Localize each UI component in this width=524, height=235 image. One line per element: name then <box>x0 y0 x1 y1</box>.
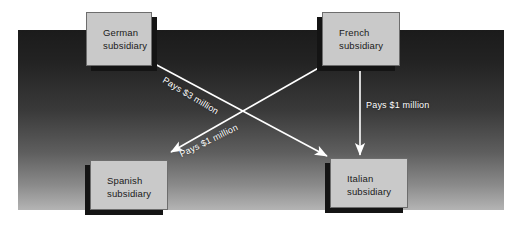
node-french-label-line2: subsidiary <box>339 39 399 52</box>
connector-layer <box>0 0 524 235</box>
edge-label-french-to-italian: Pays $1 million <box>366 100 430 110</box>
node-german-label-line2: subsidiary <box>103 39 151 52</box>
node-spanish-subsidiary[interactable]: Spanish subsidiary <box>90 160 168 210</box>
node-german-label-line1: German <box>103 26 151 39</box>
node-spanish-label-line1: Spanish <box>107 174 167 187</box>
arrow-french-to-spanish <box>171 66 322 152</box>
node-german-subsidiary[interactable]: German subsidiary <box>86 12 152 66</box>
node-french-label-line1: French <box>339 26 399 39</box>
node-italian-label-line2: subsidiary <box>347 185 407 198</box>
node-italian-label-line1: Italian <box>347 172 407 185</box>
node-italian-subsidiary[interactable]: Italian subsidiary <box>330 158 408 208</box>
node-french-subsidiary[interactable]: French subsidiary <box>322 12 400 66</box>
diagram-canvas: German subsidiary French subsidiary Span… <box>0 0 524 235</box>
arrow-german-to-italian <box>153 63 327 156</box>
node-spanish-label-line2: subsidiary <box>107 187 167 200</box>
